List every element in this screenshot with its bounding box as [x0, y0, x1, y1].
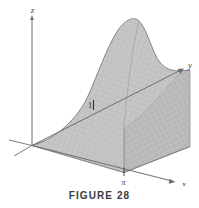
figure-caption: FIGURE 28 — [0, 190, 199, 201]
surface-body — [32, 19, 190, 173]
x-axis-label: x — [181, 179, 186, 186]
figure-container: z y x π 1 FIGURE 28 — [0, 0, 199, 208]
z-axis-label: z — [30, 5, 35, 15]
axis-negative-stubs — [9, 140, 32, 156]
surface-plot: z y x π 1 — [0, 0, 199, 186]
x-axis-arrow — [169, 179, 176, 184]
x-axis-pi-label: π — [121, 177, 126, 186]
z-axis-arrow — [30, 15, 34, 20]
y-axis-label: y — [187, 60, 192, 70]
height-value-label: 1 — [88, 100, 92, 110]
